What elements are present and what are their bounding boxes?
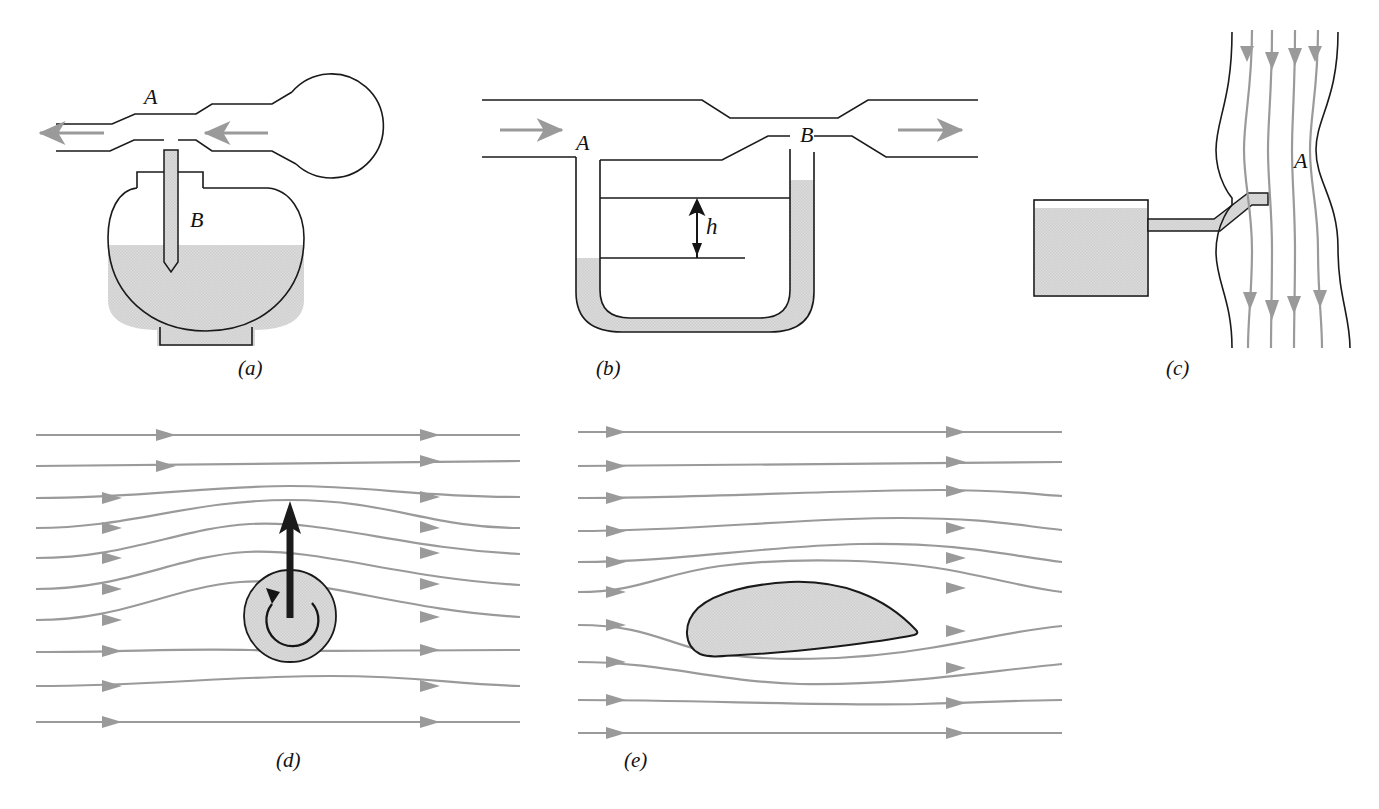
panel-label-c: (c): [1166, 356, 1189, 381]
streamline-arrowheads-c: [1240, 46, 1327, 320]
airfoil-body: [687, 582, 917, 657]
panel-a-atomizer: [40, 74, 383, 346]
height-dimension-h: [600, 198, 790, 258]
streamlines-c: [1244, 30, 1322, 348]
panel-label-b: (b): [596, 356, 621, 381]
panel-label-d: (d): [276, 748, 301, 773]
panel-b-venturi: [482, 100, 978, 332]
panel-c-vertical-pipe: [1034, 30, 1350, 348]
panel-d-magnus: [36, 429, 520, 728]
figure-vector-layer: [0, 0, 1379, 809]
capillary-tube: [164, 150, 178, 272]
bernoulli-figure: A B (a) A B h (b) A (c) (d) (e): [0, 0, 1379, 809]
panel-label-e: (e): [624, 748, 647, 773]
label-point-a-panel-c: A: [1294, 148, 1307, 174]
label-height-h: h: [706, 214, 718, 240]
u-tube-outline: [576, 149, 814, 332]
reservoir-tank: [1034, 200, 1148, 296]
vertical-pipe-walls: [1216, 32, 1350, 348]
label-point-a-panel-b: A: [576, 130, 589, 156]
label-point-a-panel-a: A: [144, 84, 157, 110]
panel-e-airfoil: [578, 426, 1062, 739]
label-point-b-panel-a: B: [190, 207, 203, 233]
manometer-liquid: [576, 180, 814, 332]
squeeze-bulb: [292, 74, 383, 178]
panel-label-a: (a): [238, 356, 263, 381]
label-point-b-panel-b: B: [800, 122, 813, 148]
